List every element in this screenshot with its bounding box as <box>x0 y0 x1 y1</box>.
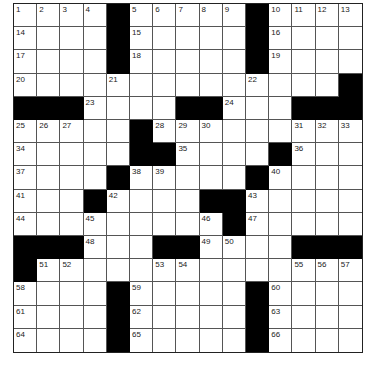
crossword-cell[interactable] <box>292 190 315 213</box>
crossword-cell[interactable]: 42 <box>107 190 130 213</box>
crossword-cell[interactable]: 39 <box>153 166 176 189</box>
crossword-cell[interactable]: 28 <box>153 120 176 143</box>
crossword-cell[interactable] <box>292 213 315 236</box>
crossword-cell[interactable]: 7 <box>176 4 199 27</box>
crossword-cell[interactable] <box>292 282 315 305</box>
crossword-cell[interactable] <box>176 74 199 97</box>
crossword-cell[interactable]: 27 <box>60 120 83 143</box>
crossword-cell[interactable]: 25 <box>14 120 37 143</box>
crossword-cell[interactable]: 64 <box>14 329 37 352</box>
crossword-cell[interactable]: 15 <box>130 27 153 50</box>
crossword-cell[interactable] <box>339 306 362 329</box>
crossword-cell[interactable]: 30 <box>200 120 223 143</box>
crossword-cell[interactable] <box>130 97 153 120</box>
crossword-cell[interactable] <box>316 166 339 189</box>
crossword-cell[interactable] <box>339 213 362 236</box>
crossword-cell[interactable]: 2 <box>37 4 60 27</box>
crossword-cell[interactable] <box>84 282 107 305</box>
crossword-cell[interactable]: 45 <box>84 213 107 236</box>
crossword-cell[interactable]: 61 <box>14 306 37 329</box>
crossword-cell[interactable] <box>107 120 130 143</box>
crossword-cell[interactable] <box>153 97 176 120</box>
crossword-cell[interactable] <box>269 74 292 97</box>
crossword-cell[interactable]: 4 <box>84 4 107 27</box>
crossword-cell[interactable]: 49 <box>200 236 223 259</box>
crossword-cell[interactable] <box>223 143 246 166</box>
crossword-cell[interactable] <box>200 329 223 352</box>
crossword-cell[interactable]: 53 <box>153 259 176 282</box>
crossword-cell[interactable]: 11 <box>292 4 315 27</box>
crossword-cell[interactable] <box>176 213 199 236</box>
crossword-cell[interactable]: 24 <box>223 97 246 120</box>
crossword-cell[interactable] <box>37 306 60 329</box>
crossword-cell[interactable]: 9 <box>223 4 246 27</box>
crossword-cell[interactable]: 66 <box>269 329 292 352</box>
crossword-cell[interactable]: 65 <box>130 329 153 352</box>
crossword-cell[interactable]: 35 <box>176 143 199 166</box>
crossword-cell[interactable] <box>200 50 223 73</box>
crossword-cell[interactable] <box>223 50 246 73</box>
crossword-cell[interactable] <box>269 259 292 282</box>
crossword-cell[interactable] <box>176 190 199 213</box>
crossword-cell[interactable] <box>223 306 246 329</box>
crossword-cell[interactable] <box>292 74 315 97</box>
crossword-cell[interactable] <box>223 282 246 305</box>
crossword-cell[interactable] <box>37 50 60 73</box>
crossword-cell[interactable] <box>200 306 223 329</box>
crossword-cell[interactable] <box>316 282 339 305</box>
crossword-cell[interactable] <box>60 74 83 97</box>
crossword-cell[interactable] <box>246 236 269 259</box>
crossword-cell[interactable] <box>84 74 107 97</box>
crossword-cell[interactable]: 21 <box>107 74 130 97</box>
crossword-cell[interactable]: 47 <box>246 213 269 236</box>
crossword-cell[interactable] <box>292 306 315 329</box>
crossword-cell[interactable]: 51 <box>37 259 60 282</box>
crossword-cell[interactable] <box>84 50 107 73</box>
crossword-cell[interactable] <box>37 166 60 189</box>
crossword-cell[interactable] <box>316 190 339 213</box>
crossword-cell[interactable] <box>269 236 292 259</box>
crossword-cell[interactable] <box>176 329 199 352</box>
crossword-cell[interactable]: 38 <box>130 166 153 189</box>
crossword-cell[interactable]: 26 <box>37 120 60 143</box>
crossword-cell[interactable] <box>339 27 362 50</box>
crossword-cell[interactable]: 56 <box>316 259 339 282</box>
crossword-cell[interactable] <box>84 143 107 166</box>
crossword-cell[interactable]: 32 <box>316 120 339 143</box>
crossword-cell[interactable]: 62 <box>130 306 153 329</box>
crossword-cell[interactable] <box>339 329 362 352</box>
crossword-cell[interactable] <box>37 27 60 50</box>
crossword-cell[interactable] <box>107 259 130 282</box>
crossword-cell[interactable] <box>200 143 223 166</box>
crossword-cell[interactable]: 44 <box>14 213 37 236</box>
crossword-cell[interactable]: 6 <box>153 4 176 27</box>
crossword-cell[interactable] <box>269 97 292 120</box>
crossword-cell[interactable] <box>246 97 269 120</box>
crossword-cell[interactable]: 20 <box>14 74 37 97</box>
crossword-cell[interactable]: 59 <box>130 282 153 305</box>
crossword-cell[interactable] <box>200 259 223 282</box>
crossword-cell[interactable]: 41 <box>14 190 37 213</box>
crossword-cell[interactable] <box>316 143 339 166</box>
crossword-cell[interactable] <box>60 306 83 329</box>
crossword-cell[interactable] <box>339 190 362 213</box>
crossword-cell[interactable] <box>339 143 362 166</box>
crossword-cell[interactable] <box>130 259 153 282</box>
crossword-cell[interactable] <box>246 259 269 282</box>
crossword-cell[interactable]: 46 <box>200 213 223 236</box>
crossword-cell[interactable] <box>153 329 176 352</box>
crossword-cell[interactable] <box>339 282 362 305</box>
crossword-cell[interactable] <box>223 120 246 143</box>
crossword-cell[interactable]: 5 <box>130 4 153 27</box>
crossword-cell[interactable] <box>60 166 83 189</box>
crossword-cell[interactable] <box>60 329 83 352</box>
crossword-cell[interactable]: 43 <box>246 190 269 213</box>
crossword-cell[interactable] <box>107 97 130 120</box>
crossword-cell[interactable] <box>153 213 176 236</box>
crossword-cell[interactable] <box>223 74 246 97</box>
crossword-cell[interactable] <box>176 50 199 73</box>
crossword-cell[interactable]: 60 <box>269 282 292 305</box>
crossword-cell[interactable]: 37 <box>14 166 37 189</box>
crossword-cell[interactable]: 58 <box>14 282 37 305</box>
crossword-cell[interactable]: 33 <box>339 120 362 143</box>
